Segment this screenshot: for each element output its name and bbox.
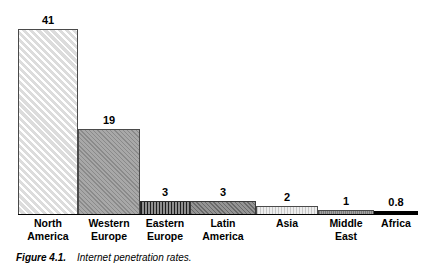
category-label-line: America <box>190 230 256 243</box>
bar-north-america <box>18 29 78 215</box>
bar-value-label: 41 <box>18 14 78 26</box>
category-label-middle-east: MiddleEast <box>318 217 374 243</box>
category-label-line: North <box>18 217 78 230</box>
bar-value-label: 1 <box>318 195 374 207</box>
category-label-line: Europe <box>140 230 190 243</box>
bar-value-label: 2 <box>256 191 318 203</box>
bar-group-north-america: 41 <box>18 8 78 215</box>
category-label-line: Asia <box>256 217 318 230</box>
category-label-line: Middle <box>318 217 374 230</box>
bar-value-label: 3 <box>190 186 256 198</box>
bar-group-eastern-europe: 3 <box>140 8 190 215</box>
category-label-latin-america: LatinAmerica <box>190 217 256 243</box>
category-axis-labels: NorthAmericaWesternEuropeEasternEuropeLa… <box>18 217 418 249</box>
bar-latin-america <box>190 201 256 215</box>
category-label-line: Latin <box>190 217 256 230</box>
x-axis-baseline <box>18 214 418 215</box>
category-label-line: Eastern <box>140 217 190 230</box>
category-label-western-europe: WesternEurope <box>78 217 140 243</box>
figure-caption-text: Internet penetration rates. <box>77 252 192 263</box>
category-label-africa: Africa <box>374 217 418 230</box>
figure-number: Figure 4.1. <box>16 252 66 263</box>
bar-group-western-europe: 19 <box>78 8 140 215</box>
figure-internet-penetration-rates: 411933210.8 NorthAmericaWesternEuropeEas… <box>0 0 432 270</box>
category-label-line: Europe <box>78 230 140 243</box>
bar-group-middle-east: 1 <box>318 8 374 215</box>
bar-value-label: 3 <box>140 186 190 198</box>
bar-group-latin-america: 3 <box>190 8 256 215</box>
bar-eastern-europe <box>140 201 190 215</box>
category-label-line: East <box>318 230 374 243</box>
category-label-asia: Asia <box>256 217 318 230</box>
figure-caption: Figure 4.1.Internet penetration rates. <box>16 252 426 264</box>
category-label-eastern-europe: EasternEurope <box>140 217 190 243</box>
category-label-line: Africa <box>374 217 418 230</box>
bar-value-label: 0.8 <box>374 196 418 208</box>
bar-value-label: 19 <box>78 114 140 126</box>
bar-group-africa: 0.8 <box>374 8 418 215</box>
bar-western-europe <box>78 129 140 215</box>
category-label-line: Western <box>78 217 140 230</box>
bar-group-asia: 2 <box>256 8 318 215</box>
category-label-line: America <box>18 230 78 243</box>
category-label-north-america: NorthAmerica <box>18 217 78 243</box>
bar-chart-plot-area: 411933210.8 <box>18 8 418 215</box>
